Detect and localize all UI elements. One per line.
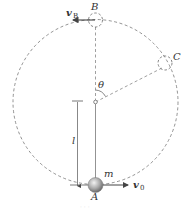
pivot-point xyxy=(94,100,98,104)
ball-position-c xyxy=(158,56,172,70)
radius-line-to-c xyxy=(96,68,163,102)
point-a-label: A xyxy=(90,191,98,202)
velocity-v0-label: v xyxy=(133,179,139,190)
pendulum-diagram: θ l m A v 0 B v B C · · · xyxy=(0,0,186,212)
point-b-label: B xyxy=(90,1,98,12)
mass-label: m xyxy=(104,168,113,179)
point-c-label: C xyxy=(173,51,181,62)
figure-caption: · · · xyxy=(80,203,90,210)
velocity-v0-subscript: 0 xyxy=(140,184,144,192)
angle-label: θ xyxy=(98,79,104,90)
velocity-vb-label: v xyxy=(66,7,72,18)
length-label: l xyxy=(72,135,75,146)
velocity-vb-subscript: B xyxy=(73,12,78,20)
angle-arc xyxy=(96,90,106,97)
